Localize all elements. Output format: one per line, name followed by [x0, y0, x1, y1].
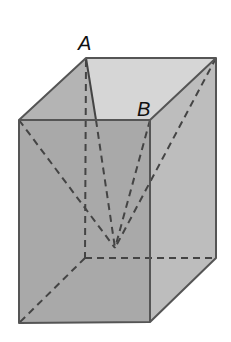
hidden-edge-vertical	[85, 60, 86, 258]
top-face-left-shading	[19, 58, 96, 120]
prism-diagram: A B	[0, 0, 231, 342]
vertex-label-B: B	[137, 98, 150, 120]
vertex-label-A: A	[77, 32, 91, 54]
